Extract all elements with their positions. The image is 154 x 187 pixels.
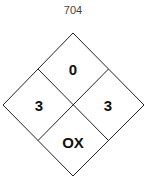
health-rating: 3 xyxy=(35,98,43,113)
flammability-rating: 0 xyxy=(69,62,77,77)
nfpa-diamond xyxy=(0,0,154,187)
instability-rating: 3 xyxy=(104,98,112,113)
special-hazard: OX xyxy=(62,135,84,150)
